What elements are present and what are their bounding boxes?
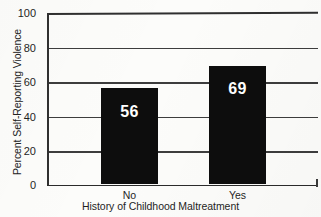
plot-area: 100 80 60 40 20 0 56 69 No Yes bbox=[47, 13, 318, 186]
gridline-40 bbox=[47, 117, 318, 119]
bar-no[interactable]: 56 bbox=[101, 88, 158, 184]
bar-value-no: 56 bbox=[101, 103, 158, 121]
y-tick-label-20: 20 bbox=[0, 145, 36, 157]
x-axis-line bbox=[47, 185, 318, 187]
y-axis-title: Percent Self-Reporting Violence bbox=[11, 12, 23, 192]
y-tick-label-60: 60 bbox=[0, 76, 36, 88]
y-tick-label-40: 40 bbox=[0, 111, 36, 123]
y-tick-label-80: 80 bbox=[0, 42, 36, 54]
y-axis-line bbox=[47, 13, 49, 186]
x-axis-title: History of Childhood Maltreatment bbox=[0, 200, 321, 212]
y-tick-label-0: 0 bbox=[0, 179, 36, 191]
gridline-80 bbox=[47, 48, 318, 50]
y-tick-label-100: 100 bbox=[0, 7, 36, 19]
gridline-60 bbox=[47, 82, 318, 84]
bar-chart-figure: Percent Self-Reporting Violence 100 80 6… bbox=[0, 0, 321, 217]
gridline-20 bbox=[47, 151, 318, 153]
x-axis-end-tick bbox=[316, 179, 318, 187]
bar-value-yes: 69 bbox=[209, 80, 266, 98]
bar-yes[interactable]: 69 bbox=[209, 66, 266, 185]
gridline-100 bbox=[47, 12, 318, 15]
